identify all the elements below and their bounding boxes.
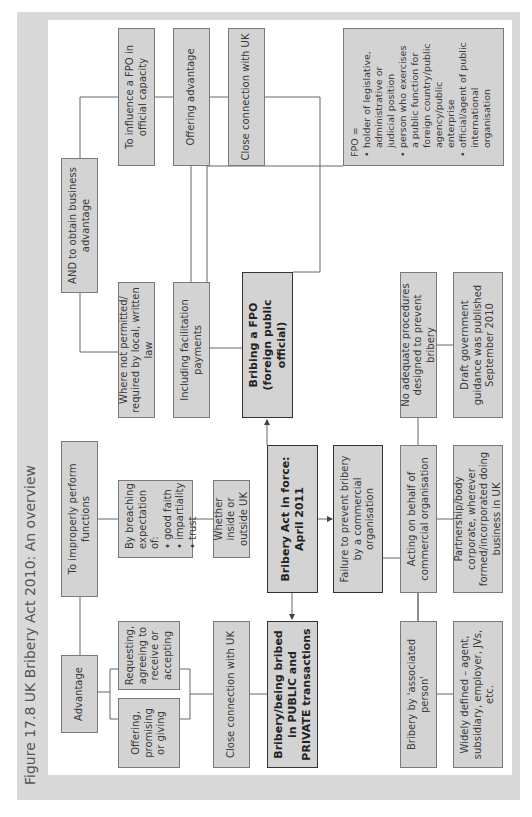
- widely-defined-box: Widely defined – agent, subsidiary, empl…: [453, 621, 503, 768]
- no-adequate-procedures-box: No adequate procedures designed to preve…: [400, 272, 437, 418]
- bribing-fpo-box: Bribing a FPO (foreign public official): [242, 272, 293, 418]
- facilitation-payments-box: Including facilitation payments: [173, 282, 210, 418]
- partnership-box: Partnership/body corporate, wherever for…: [453, 445, 503, 593]
- requesting-accepting-box: Requesting, agreeing to receive or accep…: [118, 621, 180, 690]
- draft-guidance-box: Draft government guidance was published …: [453, 272, 503, 418]
- offering-giving-box: Offering, promising or giving: [118, 698, 180, 768]
- bribery-public-private-box: Bribery/being bribed in PUBLIC and PRIVA…: [267, 621, 318, 768]
- influence-fpo-box: To influence a FPO in official capacity: [118, 28, 155, 166]
- close-connection-box-fpo: Close connection with UK: [228, 28, 265, 166]
- offering-advantage-box: Offering advantage: [173, 28, 210, 166]
- close-connection-box-bribery: Close connection with UK: [213, 621, 250, 768]
- fpo-definition-list: holder of legislative, administrative or…: [361, 37, 493, 157]
- advantage-box: Advantage: [61, 655, 98, 733]
- associated-person-box: Bribery by 'associated person': [400, 621, 437, 768]
- acting-on-behalf-box: Acting on behalf of commercial organisat…: [400, 445, 437, 593]
- and-business-advantage-box: AND to obtain business advantage: [61, 158, 98, 293]
- improperly-perform-box: To improperly perform functions: [61, 441, 98, 597]
- breaching-expectation-box: By breaching expectation of: good faith …: [118, 480, 193, 558]
- breaching-list: good faith impartiality trust: [162, 483, 200, 549]
- inside-outside-uk-box: Whether inside or outside UK: [213, 480, 250, 558]
- not-permitted-box: Where not permitted/ required by local, …: [118, 282, 155, 418]
- fpo-definition-box: FPO = holder of legislative, administrat…: [343, 28, 504, 166]
- failure-to-prevent-box: Failure to prevent bribery by a commerci…: [333, 445, 383, 593]
- bribery-act-box: Bribery Act in force: April 2011: [267, 445, 318, 593]
- rotated-diagram: Figure 17.8 UK Bribery Act 2010: An over…: [0, 0, 532, 817]
